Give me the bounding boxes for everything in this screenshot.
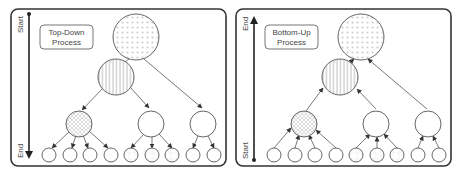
level3-node-c xyxy=(190,111,216,137)
axis-start-label: Start xyxy=(241,141,250,159)
diagram-canvas: Start End Top-Down Process xyxy=(0,0,458,178)
leaf-node xyxy=(145,148,159,162)
leaf-nodes xyxy=(42,148,221,162)
leaf-node xyxy=(390,148,404,162)
level2-node xyxy=(322,59,358,95)
leaf-node xyxy=(349,148,363,162)
root-node xyxy=(113,14,159,60)
level3-node-a xyxy=(291,111,317,137)
level3-node-a xyxy=(66,111,92,137)
axis-start-dot xyxy=(252,158,256,162)
top-down-panel: Start End Top-Down Process xyxy=(11,9,226,166)
axis-end-label: End xyxy=(241,17,250,31)
leaf-node xyxy=(288,148,302,162)
process-label-line2: Process xyxy=(277,38,306,47)
leaf-node xyxy=(124,148,138,162)
axis-start-dot xyxy=(27,12,31,16)
level3-node-b xyxy=(138,111,164,137)
leaf-node xyxy=(63,148,77,162)
leaf-node xyxy=(165,148,179,162)
leaf-node xyxy=(308,148,322,162)
leaf-node xyxy=(370,148,384,162)
leaf-node xyxy=(83,148,97,162)
leaf-node xyxy=(329,148,343,162)
leaf-node xyxy=(411,148,425,162)
process-label-line1: Top-Down xyxy=(48,28,84,37)
process-label-line2: Process xyxy=(52,38,81,47)
level3-node-b xyxy=(363,111,389,137)
leaf-node xyxy=(267,148,281,162)
leaf-node xyxy=(42,148,56,162)
leaf-node xyxy=(432,148,446,162)
axis-start-label: Start xyxy=(16,15,25,33)
leaf-node xyxy=(104,148,118,162)
bottom-up-panel: End Start Bottom-Up Process xyxy=(236,9,451,166)
leaf-nodes xyxy=(267,148,446,162)
root-node xyxy=(338,14,384,60)
process-label-line1: Bottom-Up xyxy=(272,28,311,37)
level2-node xyxy=(98,59,134,95)
leaf-node xyxy=(186,148,200,162)
axis-end-label: End xyxy=(16,144,25,158)
level3-node-c xyxy=(415,111,441,137)
leaf-node xyxy=(207,148,221,162)
